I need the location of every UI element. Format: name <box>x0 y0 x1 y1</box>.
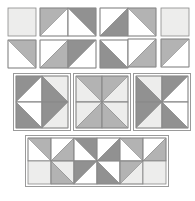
quilt-cell <box>97 138 120 161</box>
quilt-cell <box>161 8 189 36</box>
quilt-cell <box>120 138 143 161</box>
solid-patch <box>8 8 36 36</box>
quilt-cell <box>51 138 74 161</box>
quilt-cell <box>68 8 96 36</box>
quilt-cell <box>28 161 51 184</box>
solid-patch <box>28 161 51 184</box>
quilt-cell <box>162 76 188 102</box>
quilt-cell <box>136 76 162 102</box>
quilt-cell <box>8 40 36 68</box>
quilt-cell <box>136 102 162 128</box>
solid-patch <box>161 8 189 36</box>
quilt-cell <box>8 8 36 36</box>
quilt-cell <box>128 39 156 67</box>
group-mid-left <box>14 74 71 131</box>
quilt-cell <box>74 161 97 184</box>
quilt-canvas <box>0 0 195 201</box>
quilt-cell <box>16 102 42 128</box>
quilt-cell <box>100 40 128 68</box>
solid-patch <box>143 161 166 184</box>
quilt-cell <box>76 102 102 128</box>
quilt-cell <box>100 8 128 36</box>
quilt-cell <box>102 76 128 102</box>
quilt-diagram <box>0 0 195 201</box>
quilt-cell <box>28 138 51 161</box>
quilt-cell <box>74 138 97 161</box>
quilt-cell <box>76 76 102 102</box>
quilt-cell <box>120 161 143 184</box>
quilt-cell <box>68 40 96 68</box>
group-bottom-row <box>26 136 169 187</box>
quilt-cell <box>40 40 68 68</box>
quilt-cell <box>161 39 189 67</box>
quilt-cell <box>40 8 68 36</box>
quilt-cell <box>162 102 188 128</box>
quilt-cell <box>16 76 42 102</box>
group-mid-center <box>74 74 131 131</box>
quilt-cell <box>42 76 68 102</box>
quilt-cell <box>102 102 128 128</box>
quilt-cell <box>51 161 74 184</box>
quilt-cell <box>128 8 156 36</box>
group-mid-right <box>134 74 191 131</box>
quilt-cell <box>143 138 166 161</box>
quilt-cell <box>97 161 120 184</box>
quilt-cell <box>42 102 68 128</box>
quilt-cell <box>143 161 166 184</box>
